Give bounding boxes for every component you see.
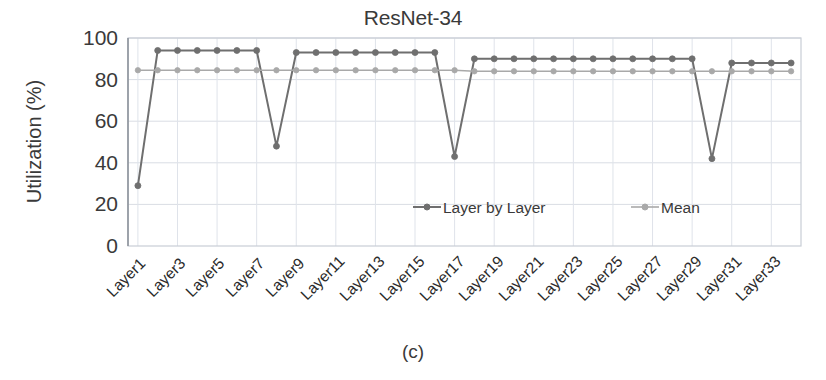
data-point-marker — [610, 56, 616, 62]
data-point-marker — [353, 50, 359, 56]
series-layer-by-layer — [135, 47, 794, 188]
data-point-marker — [551, 56, 557, 62]
data-point-marker — [135, 183, 141, 189]
data-point-marker — [452, 68, 457, 73]
data-point-marker — [432, 68, 437, 73]
data-point-marker — [768, 60, 774, 66]
figure-subcaption: (c) — [0, 341, 826, 363]
chart-legend: Layer by LayerMean — [413, 199, 700, 216]
data-point-marker — [155, 47, 161, 53]
data-point-marker — [294, 68, 299, 73]
data-point-marker — [155, 68, 160, 73]
data-point-marker — [195, 68, 200, 73]
legend-label: Mean — [661, 199, 700, 216]
data-point-marker — [274, 68, 279, 73]
data-point-marker — [313, 50, 319, 56]
data-point-marker — [689, 69, 694, 74]
data-point-marker — [175, 68, 180, 73]
data-point-marker — [570, 56, 576, 62]
data-point-marker — [471, 56, 477, 62]
data-point-marker — [491, 69, 496, 74]
data-point-marker — [373, 68, 378, 73]
data-point-marker — [135, 68, 140, 73]
data-point-marker — [333, 50, 339, 56]
legend-swatch-marker — [424, 204, 430, 210]
data-point-marker — [788, 69, 793, 74]
data-point-marker — [590, 56, 596, 62]
data-point-marker — [729, 69, 734, 74]
data-point-marker — [531, 56, 537, 62]
data-point-marker — [571, 69, 576, 74]
data-point-marker — [709, 69, 714, 74]
data-point-marker — [452, 154, 458, 160]
data-point-marker — [769, 69, 774, 74]
data-point-marker — [254, 47, 260, 53]
data-point-marker — [234, 68, 239, 73]
data-point-marker — [174, 47, 180, 53]
data-point-marker — [630, 56, 636, 62]
data-point-marker — [511, 69, 516, 74]
data-point-marker — [393, 68, 398, 73]
data-point-marker — [689, 56, 695, 62]
data-point-marker — [333, 68, 338, 73]
data-point-marker — [630, 69, 635, 74]
legend-label: Layer by Layer — [443, 199, 546, 216]
data-point-marker — [412, 50, 418, 56]
data-point-marker — [650, 69, 655, 74]
data-point-marker — [293, 50, 299, 56]
data-point-marker — [412, 68, 417, 73]
data-point-marker — [749, 60, 755, 66]
data-point-marker — [432, 50, 438, 56]
data-point-marker — [392, 50, 398, 56]
data-point-marker — [511, 56, 517, 62]
data-point-marker — [472, 69, 477, 74]
data-point-marker — [491, 56, 497, 62]
data-point-marker — [194, 47, 200, 53]
line-chart-plot: Layer by LayerMean — [0, 0, 826, 380]
data-point-marker — [214, 47, 220, 53]
data-point-marker — [788, 60, 794, 66]
data-point-marker — [650, 56, 656, 62]
data-point-marker — [590, 69, 595, 74]
figure-panel: ResNet-34 Utilization (%) 020406080100 L… — [0, 0, 826, 380]
data-point-marker — [709, 156, 715, 162]
data-point-marker — [551, 69, 556, 74]
data-point-marker — [234, 47, 240, 53]
data-point-marker — [531, 69, 536, 74]
data-point-marker — [313, 68, 318, 73]
data-point-marker — [670, 69, 675, 74]
legend-swatch-marker — [642, 204, 648, 210]
data-point-marker — [254, 68, 259, 73]
data-point-marker — [610, 69, 615, 74]
legend-item-layer-by-layer: Layer by Layer — [413, 199, 546, 216]
data-point-marker — [669, 56, 675, 62]
data-point-marker — [214, 68, 219, 73]
data-point-marker — [372, 50, 378, 56]
data-point-marker — [353, 68, 358, 73]
data-point-marker — [273, 143, 279, 149]
legend-item-mean: Mean — [631, 199, 700, 216]
data-point-marker — [749, 69, 754, 74]
data-point-marker — [729, 60, 735, 66]
